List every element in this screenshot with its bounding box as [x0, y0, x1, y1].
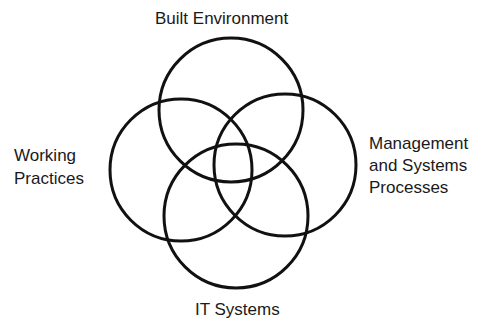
label-line: and Systems: [369, 155, 468, 177]
label-line: Processes: [369, 177, 468, 199]
label-management-systems-processes: Management and Systems Processes: [369, 133, 468, 199]
label-line: Built Environment: [155, 8, 288, 30]
label-it-systems: IT Systems: [195, 299, 280, 321]
label-line: IT Systems: [195, 299, 280, 321]
label-line: Practices: [14, 167, 84, 190]
label-line: Working: [14, 144, 84, 167]
label-working-practices: Working Practices: [14, 144, 84, 190]
venn-diagram: Built Environment Working Practices Mana…: [0, 0, 489, 329]
label-built-environment: Built Environment: [155, 8, 288, 30]
label-line: Management: [369, 133, 468, 155]
